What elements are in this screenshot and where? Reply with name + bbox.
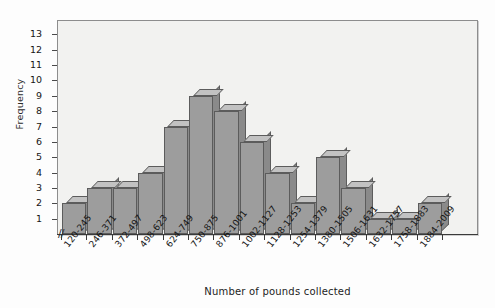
plot-area	[57, 20, 478, 235]
y-tick-label: 2	[20, 198, 42, 208]
y-tick-label: 3	[20, 183, 42, 193]
x-tick-mark	[213, 235, 214, 240]
histogram-chart: Frequency 12345678910111213 // Number of…	[0, 0, 495, 308]
y-tick-label: 10	[20, 75, 42, 85]
bars-container	[58, 21, 477, 234]
y-tick-label: 12	[20, 45, 42, 55]
histogram-bar	[189, 96, 213, 234]
y-tick-label: 1	[20, 214, 42, 224]
y-tick-label: 7	[20, 122, 42, 132]
x-tick-mark	[290, 235, 291, 240]
x-tick-mark	[315, 235, 316, 240]
x-tick-mark	[340, 235, 341, 240]
y-tick-label: 8	[20, 106, 42, 116]
x-tick-mark	[112, 235, 113, 240]
y-tick-label: 13	[20, 29, 42, 39]
x-tick-mark	[188, 235, 189, 240]
y-tick-label: 6	[20, 137, 42, 147]
y-axis-ticks: 12345678910111213	[0, 0, 56, 308]
x-axis-title: Number of pounds collected	[0, 286, 495, 297]
y-tick-label: 11	[20, 60, 42, 70]
y-tick-label: 4	[20, 168, 42, 178]
x-tick-mark	[86, 235, 87, 240]
bar-front-face	[189, 96, 213, 234]
x-tick-mark	[137, 235, 138, 240]
x-tick-mark	[391, 235, 392, 240]
x-tick-mark	[264, 235, 265, 240]
y-tick-label: 9	[20, 91, 42, 101]
x-tick-mark	[366, 235, 367, 240]
x-tick-mark	[239, 235, 240, 240]
x-tick-mark	[61, 235, 62, 240]
x-tick-mark	[442, 235, 443, 240]
x-tick-mark	[417, 235, 418, 240]
x-tick-mark	[163, 235, 164, 240]
y-tick-label: 5	[20, 152, 42, 162]
